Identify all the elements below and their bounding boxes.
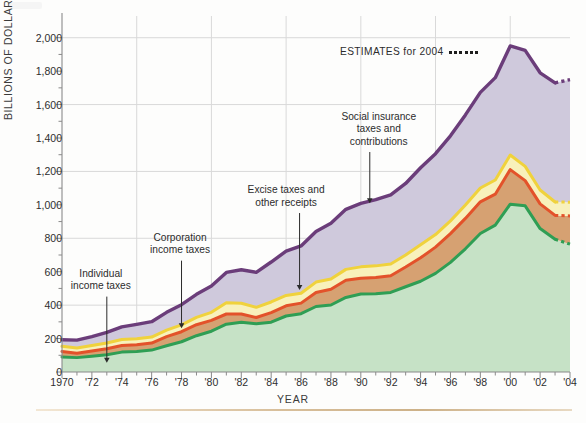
annotation-label: Corporation income taxes <box>105 232 255 257</box>
x-tick-label: '98 <box>474 376 488 388</box>
y-tick-label: 800 <box>16 232 62 244</box>
annotation-label: Individual income taxes <box>26 268 176 293</box>
y-axis-title: BILLIONS OF DOLLARS <box>2 0 14 120</box>
y-tick-label: 1,200 <box>16 165 62 177</box>
x-tick-label: '84 <box>264 376 278 388</box>
x-tick-label: '86 <box>294 376 308 388</box>
x-tick-label: 1970 <box>50 376 73 388</box>
estimates-label: ESTIMATES for 2004 <box>340 46 444 57</box>
bottom-rule <box>36 409 572 411</box>
chart-figure: 02004006008001,0001,2001,4001,6001,8002,… <box>0 0 586 423</box>
x-tick-label: '92 <box>384 376 398 388</box>
y-tick-label: 2,000 <box>16 32 62 44</box>
x-tick-label: '76 <box>145 376 159 388</box>
x-tick-label: '80 <box>205 376 219 388</box>
chart-plot-area <box>0 0 586 423</box>
y-tick-label: 1,400 <box>16 132 62 144</box>
x-tick-label: '96 <box>444 376 458 388</box>
x-axis-title: YEAR <box>0 393 586 405</box>
x-tick-label: '02 <box>533 376 547 388</box>
x-tick-label: '94 <box>414 376 428 388</box>
x-tick-label: '88 <box>324 376 338 388</box>
y-tick-label: 1,000 <box>16 199 62 211</box>
annotation-label: Excise taxes and other receipts <box>211 184 361 209</box>
x-tick-label: '74 <box>115 376 129 388</box>
y-tick-label: 1,600 <box>16 99 62 111</box>
x-tick-label: '00 <box>503 376 517 388</box>
estimates-note: ESTIMATES for 2004 <box>340 46 481 57</box>
x-tick-label: '04 <box>563 376 577 388</box>
y-tick-label: 400 <box>16 299 62 311</box>
x-tick-label: '78 <box>175 376 189 388</box>
x-tick-label: '82 <box>234 376 248 388</box>
x-tick-label: '90 <box>354 376 368 388</box>
annotation-label: Social insurance taxes and contributions <box>304 111 454 148</box>
y-tick-label: 1,800 <box>16 65 62 77</box>
estimate-dot-marker <box>449 46 481 57</box>
y-tick-label: 200 <box>16 333 62 345</box>
x-tick-label: '72 <box>85 376 99 388</box>
